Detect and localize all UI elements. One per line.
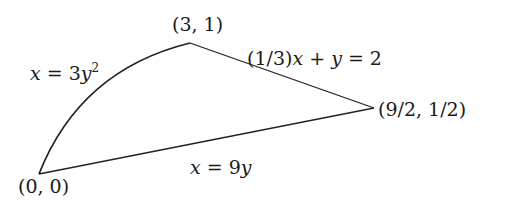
parabola-var: y xyxy=(81,62,92,84)
vertex-label-top: (3, 1) xyxy=(172,15,223,34)
base-y: y xyxy=(241,156,252,178)
vertex-label-origin: (0, 0) xyxy=(18,177,69,196)
parabola-lhs: x xyxy=(30,62,41,84)
parabola-eq: = 3 xyxy=(41,62,81,84)
slant-plus: + xyxy=(303,47,331,69)
slant-line-equation-label: (1/3)x + y = 2 xyxy=(247,49,382,68)
slant-y: y xyxy=(331,47,342,69)
slant-x: x xyxy=(292,47,303,69)
base-x: x xyxy=(190,156,201,178)
parabola-equation-label: x = 3y2 xyxy=(30,64,99,83)
slant-rhs: = 2 xyxy=(342,47,382,69)
vertex-label-right: (9/2, 1/2) xyxy=(378,100,466,119)
slant-coefficient: (1/3) xyxy=(247,47,292,69)
parabola-exponent: 2 xyxy=(92,61,100,75)
base-line-equation-label: x = 9y xyxy=(190,158,252,177)
base-eq: = 9 xyxy=(201,156,241,178)
